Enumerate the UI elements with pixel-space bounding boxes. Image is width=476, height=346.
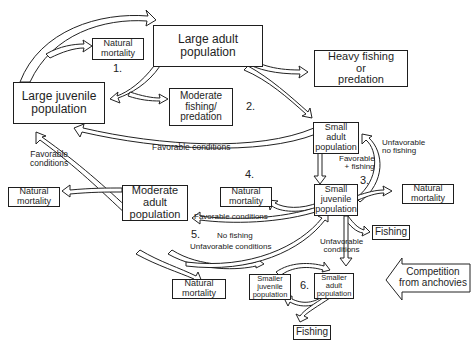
node-label: mortality <box>101 49 135 59</box>
natural-mortality-bottom: Natural mortality <box>172 279 226 299</box>
node-label: from anchovies <box>399 278 467 289</box>
node-label: population <box>315 205 357 215</box>
label-favorable-conditions-left: Favorable conditions <box>30 150 68 168</box>
smaller-adult-population: Smaller adult population <box>314 273 354 299</box>
moderate-fishing-predation: Moderate fishing/ predation <box>169 88 233 126</box>
step-number-1: 1. <box>113 62 122 74</box>
node-label: mortality <box>182 289 216 299</box>
step-number-5: 5. <box>191 228 200 240</box>
large-juvenile-population: Large juvenile population <box>13 82 105 124</box>
small-juvenile-population: Small juvenile population <box>314 184 358 216</box>
natural-mortality-right: Natural mortality <box>402 184 454 204</box>
competition-from-anchovies: Competition from anchovies <box>398 266 468 290</box>
smaller-juvenile-population: Smaller juvenile population <box>249 274 291 300</box>
arrow-to-fishing-bottom <box>296 296 330 322</box>
node-label: population <box>317 290 352 298</box>
step-number-2: 2. <box>246 100 255 112</box>
node-label: population <box>315 143 357 153</box>
natural-mortality-left: Natural mortality <box>8 187 60 207</box>
node-label: Moderate <box>180 91 222 102</box>
label-favorable-conditions-top: Favorable conditions <box>152 143 230 152</box>
label-favorable-conditions-mid: Favorable conditions <box>194 213 268 221</box>
node-label: Fishing <box>296 327 328 338</box>
label-unfavorable-conditions-mid: Unfavorable conditions <box>190 243 271 251</box>
node-label: mortality <box>411 194 445 204</box>
node-label: population <box>31 103 86 116</box>
node-label: predation <box>338 74 384 86</box>
step-number-6: 6. <box>300 279 309 291</box>
node-label: mortality <box>17 197 51 207</box>
arrow-to-moderate-fishing <box>128 92 168 104</box>
label-unfavorable-conditions-right: Unfavorable conditions <box>320 238 363 255</box>
label-line: conditions <box>30 159 68 168</box>
node-label: Fishing <box>375 227 407 238</box>
natural-mortality-4: Natural mortality <box>220 187 272 207</box>
population-dynamics-diagram: Large adult population Natural mortality… <box>0 0 476 346</box>
moderate-adult-population: Moderate adult population <box>122 185 188 221</box>
natural-mortality-1: Natural mortality <box>92 38 144 60</box>
node-label: mortality <box>229 197 263 207</box>
label-unfavorable-no-fishing: Unfavorable no fishing <box>382 139 425 156</box>
small-adult-population: Small adult population <box>313 122 359 154</box>
step-number-4: 4. <box>245 168 254 180</box>
label-line: conditions <box>320 246 363 254</box>
node-label: population <box>180 46 235 59</box>
step-number-3: 3. <box>360 174 369 186</box>
node-label: predation <box>180 112 222 123</box>
fishing-right: Fishing <box>372 225 410 240</box>
label-line: no fishing <box>382 147 425 155</box>
label-no-fishing: No fishing <box>217 232 253 240</box>
heavy-fishing-or-predation: Heavy fishing or predation <box>314 50 408 87</box>
large-adult-population: Large adult population <box>153 25 263 67</box>
label-line: + fishing <box>339 163 375 171</box>
node-label: Heavy fishing <box>328 51 394 63</box>
label-favorable-fishing: Favorable + fishing <box>339 155 375 172</box>
fishing-bottom: Fishing <box>293 325 331 340</box>
node-label: population <box>130 209 181 221</box>
node-label: population <box>253 291 288 299</box>
